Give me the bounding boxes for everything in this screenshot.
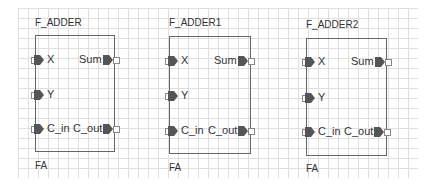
pin-connector-icon bbox=[384, 129, 391, 136]
pin-label: Sum bbox=[214, 54, 237, 66]
pin-label: X bbox=[181, 54, 188, 66]
block-type-name: FA bbox=[169, 162, 181, 173]
pin-label: Y bbox=[181, 89, 188, 101]
pin-label: X bbox=[47, 53, 54, 65]
block-type-name: FA bbox=[35, 160, 47, 171]
pin-label: C_in bbox=[181, 124, 204, 136]
pin-label: C_out bbox=[73, 122, 102, 134]
pin-label: Sum bbox=[79, 53, 102, 65]
pin-label: C_in bbox=[47, 122, 70, 134]
pin-label: Sum bbox=[351, 55, 374, 67]
instance-name: F_ADDER2 bbox=[306, 19, 358, 30]
instance-name: F_ADDER bbox=[35, 17, 82, 28]
pin-connector-icon bbox=[113, 126, 120, 133]
pin-connector-icon bbox=[248, 58, 255, 65]
pin-connector-icon bbox=[248, 128, 255, 135]
pin-label: Y bbox=[318, 91, 325, 103]
pin-label: Y bbox=[47, 88, 54, 100]
pin-connector-icon bbox=[385, 59, 392, 66]
pin-connector-icon bbox=[113, 57, 120, 64]
instance-name: F_ADDER1 bbox=[169, 17, 221, 28]
pin-label: C_out bbox=[344, 125, 373, 137]
pin-label: C_out bbox=[208, 124, 237, 136]
pin-label: C_in bbox=[318, 125, 341, 137]
block-type-name: FA bbox=[306, 163, 318, 174]
pin-label: X bbox=[318, 55, 325, 67]
